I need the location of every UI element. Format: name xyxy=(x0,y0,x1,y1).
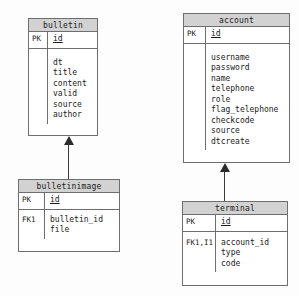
relationship-line-terminal xyxy=(224,171,225,201)
er-diagram-canvas: bulletin PK id dt title content valid so… xyxy=(0,0,299,296)
relationship-terminal-to-account xyxy=(0,0,299,296)
relationship-arrowhead-account xyxy=(220,163,230,172)
